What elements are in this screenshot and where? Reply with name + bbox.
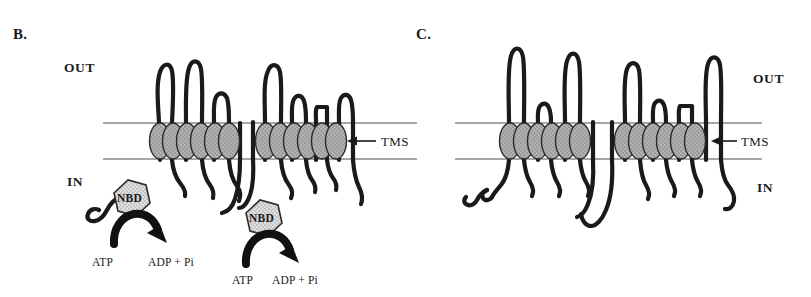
- panel-c-letter: C.: [416, 26, 431, 43]
- panel-c-in-label: IN: [757, 180, 773, 196]
- panel-b-letter: B.: [13, 26, 27, 43]
- panel-b-hydrolysis-arrow-1: [114, 214, 167, 244]
- panel-b-nbd-2-label: NBD: [249, 212, 274, 224]
- panel-b-graphics: [87, 61, 417, 264]
- figure-root: B. OUT IN TMS NBD NBD ATP ADP + Pi ATP A…: [0, 0, 811, 297]
- panel-b-tms-group-2: [256, 123, 347, 159]
- panel-c-out-label: OUT: [753, 71, 784, 87]
- panel-c-tms-group-2: [615, 123, 706, 159]
- panel-b-out-label: OUT: [64, 60, 95, 76]
- panel-b-tms-label: TMS: [381, 134, 409, 150]
- panel-c-tms-pointer-arrow: [711, 137, 737, 146]
- panel-b-hydrolysis-arrow-2: [246, 234, 299, 264]
- panel-c-tms-label: TMS: [741, 134, 769, 150]
- panel-b-atp-label-2: ATP: [232, 274, 253, 286]
- panel-b-atp-label-1: ATP: [92, 256, 113, 268]
- panel-b-in-label: IN: [67, 174, 83, 190]
- panel-b-tms-group-1: [150, 123, 240, 159]
- panel-b-nbd-1-label: NBD: [117, 192, 142, 204]
- panel-b-adp-pi-label-2: ADP + Pi: [272, 274, 318, 286]
- panel-c-tms-group-1: [500, 123, 591, 159]
- panel-c-graphics: [455, 49, 762, 226]
- panel-b-adp-pi-label-1: ADP + Pi: [148, 256, 194, 268]
